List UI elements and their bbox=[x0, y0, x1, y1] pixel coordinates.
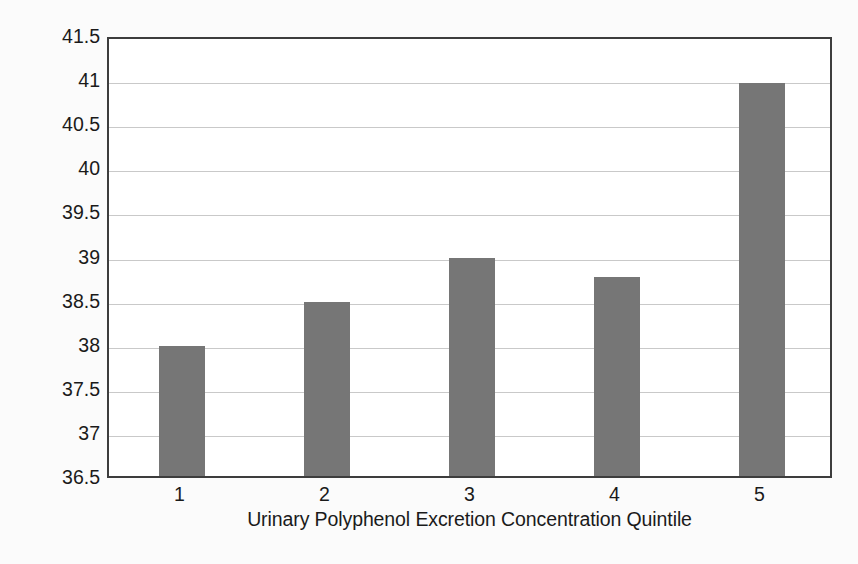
x-axis-title: Urinary Polyphenol Excretion Concentrati… bbox=[107, 508, 832, 531]
x-axis-tick-label: 5 bbox=[754, 484, 765, 505]
bar bbox=[594, 277, 640, 476]
plot-area bbox=[107, 37, 832, 478]
x-axis-tick-label: 3 bbox=[464, 484, 475, 505]
y-axis-tick-label: 38.5 bbox=[0, 292, 100, 312]
x-axis-tick-labels: 12345 bbox=[107, 484, 832, 510]
y-axis-tick-label: 40 bbox=[0, 160, 100, 180]
bar bbox=[159, 346, 205, 476]
bar bbox=[739, 83, 785, 476]
y-axis-tick-label: 37.5 bbox=[0, 380, 100, 400]
y-axis-tick-label: 37 bbox=[0, 424, 100, 444]
bar-series bbox=[109, 39, 830, 476]
bar bbox=[449, 258, 495, 477]
y-axis-tick-labels: 41.54140.54039.53938.53837.53736.5 bbox=[0, 0, 100, 564]
x-axis-tick-label: 1 bbox=[174, 484, 185, 505]
bar bbox=[304, 302, 350, 476]
y-axis-tick-label: 41.5 bbox=[0, 27, 100, 47]
y-axis-tick-label: 38 bbox=[0, 336, 100, 356]
y-axis-tick-label: 36.5 bbox=[0, 468, 100, 488]
y-axis-tick-label: 41 bbox=[0, 71, 100, 91]
y-axis-tick-label: 40.5 bbox=[0, 115, 100, 135]
x-axis-tick-label: 2 bbox=[319, 484, 330, 505]
x-axis-tick-label: 4 bbox=[609, 484, 620, 505]
y-axis-tick-label: 39.5 bbox=[0, 204, 100, 224]
chart-figure: Immediate Memory Recall Score 41.54140.5… bbox=[0, 0, 858, 564]
y-axis-tick-label: 39 bbox=[0, 248, 100, 268]
